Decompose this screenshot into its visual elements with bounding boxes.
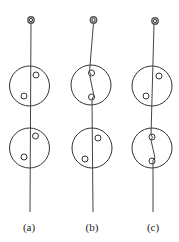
hole xyxy=(95,135,101,141)
hole xyxy=(143,93,149,99)
ring-icon xyxy=(152,18,158,24)
lower-disc xyxy=(10,128,50,168)
lower-disc xyxy=(132,128,172,168)
disc-outline xyxy=(71,65,111,105)
hole xyxy=(33,133,39,139)
upper-disc xyxy=(71,65,111,105)
hole xyxy=(82,156,88,162)
disc-outline xyxy=(10,128,50,168)
panel-b: (b) xyxy=(71,17,112,234)
hole xyxy=(33,72,39,78)
ring-inner xyxy=(92,18,95,21)
hole xyxy=(21,154,27,160)
ring-icon xyxy=(28,17,34,23)
ring-inner xyxy=(29,18,32,21)
thread-line xyxy=(90,23,95,212)
panel-a: (a) xyxy=(10,17,50,234)
ring-inner xyxy=(153,19,156,22)
upper-disc xyxy=(10,66,50,106)
disc-outline xyxy=(10,66,50,106)
thread-line xyxy=(30,23,31,212)
panel-label-c: (c) xyxy=(147,221,160,234)
panel-c: (c) xyxy=(132,18,172,234)
hole xyxy=(21,93,27,99)
thread-line xyxy=(151,24,155,212)
panel-label-a: (a) xyxy=(23,221,36,234)
threading-diagram: (a) (b) (c) xyxy=(0,0,179,242)
panel-label-b: (b) xyxy=(86,221,99,234)
ring-icon xyxy=(90,17,96,23)
hole xyxy=(156,73,162,79)
